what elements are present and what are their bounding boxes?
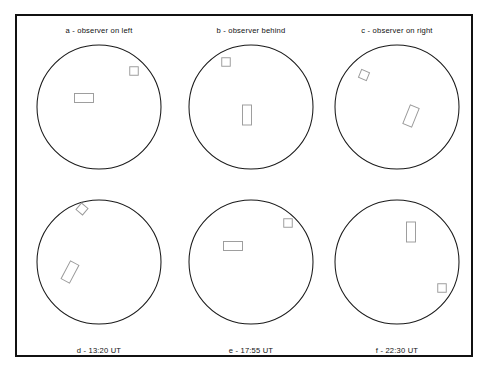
- panel-caption-e: e - 17:55 UT: [175, 346, 327, 355]
- figure-border-frame: a - observer on leftb - observer behindc…: [15, 14, 473, 357]
- disc-svg-d: [23, 190, 175, 330]
- feature-rectangle-a-1: [75, 94, 94, 103]
- panel-caption-a: a - observer on left: [23, 26, 175, 35]
- disc-svg-c: [321, 37, 473, 177]
- disc-container-d: [23, 190, 175, 330]
- disc-outline-c: [335, 45, 459, 169]
- feature-rectangle-b-1: [243, 105, 252, 125]
- feature-square-e-0: [284, 219, 293, 228]
- feature-rectangle-f-0: [407, 222, 416, 242]
- feature-square-b-0: [222, 58, 231, 67]
- disc-svg-f: [321, 190, 473, 330]
- disc-outline-a: [37, 45, 161, 169]
- panel-d: d - 13:20 UT: [23, 188, 175, 359]
- panel-grid: a - observer on leftb - observer behindc…: [17, 16, 475, 359]
- disc-container-f: [321, 190, 473, 330]
- disc-svg-b: [175, 37, 327, 177]
- panel-c: c - observer on right: [321, 20, 473, 191]
- disc-svg-e: [175, 190, 327, 330]
- disc-svg-a: [23, 37, 175, 177]
- feature-square-f-1: [438, 284, 447, 293]
- panel-a: a - observer on left: [23, 20, 175, 191]
- figure-root: a - observer on leftb - observer behindc…: [0, 0, 492, 372]
- feature-rectangle-e-1: [224, 242, 243, 251]
- disc-container-a: [23, 37, 175, 177]
- disc-outline-f: [335, 200, 459, 324]
- panel-f: f - 22:30 UT: [321, 188, 473, 359]
- disc-container-c: [321, 37, 473, 177]
- panel-e: e - 17:55 UT: [175, 188, 327, 359]
- disc-container-e: [175, 190, 327, 330]
- panel-caption-f: f - 22:30 UT: [321, 346, 473, 355]
- disc-outline-e: [189, 200, 313, 324]
- disc-container-b: [175, 37, 327, 177]
- feature-square-a-0: [130, 67, 139, 76]
- panel-caption-b: b - observer behind: [175, 26, 327, 35]
- panel-caption-d: d - 13:20 UT: [23, 346, 175, 355]
- disc-outline-d: [37, 200, 161, 324]
- panel-b: b - observer behind: [175, 20, 327, 191]
- panel-caption-c: c - observer on right: [321, 26, 473, 35]
